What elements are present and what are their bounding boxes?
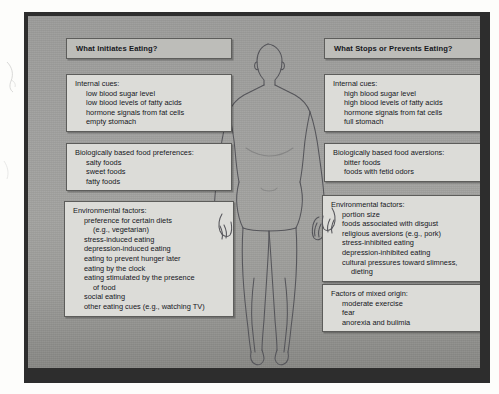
box-environmental-factors-initiates: Environmental factors: preference for ce… (64, 201, 234, 317)
stray-pencil-mark-icon (4, 60, 22, 94)
left-hand-overlay-icon (210, 212, 236, 242)
list-item: other eating cues (e.g., watching TV) (73, 302, 227, 312)
box-food-aversions: Biologically based food aversions: bitte… (324, 143, 480, 182)
box-category-label: Biologically based food aversions: (333, 148, 480, 158)
right-hand-overlay-icon (318, 206, 344, 236)
list-item: high blood sugar level (333, 89, 480, 99)
list-item: eating by the clock (73, 264, 227, 274)
list-item: eating to prevent hunger later (73, 254, 227, 264)
box-category-label: Internal cues: (333, 79, 480, 89)
list-item: salty foods (75, 158, 225, 168)
list-item: sweet foods (75, 167, 225, 177)
list-item: portion size (331, 210, 480, 220)
list-item: low blood sugar level (75, 89, 225, 99)
list-item: low blood levels of fatty acids (75, 98, 225, 108)
list-item: foods with fetid odors (333, 167, 480, 177)
box-category-label: Environmental factors: (331, 200, 480, 210)
list-item: bitter foods (333, 158, 480, 168)
list-item: high blood levels of fatty acids (333, 98, 480, 108)
list-item-continuation: (e.g., vegetarian) (73, 225, 227, 235)
list-item: stress-inhibited eating (331, 238, 480, 248)
list-item: depression-inhibited eating (331, 248, 480, 258)
figure-panel: What Initiates Eating? Internal cues: lo… (28, 16, 480, 368)
box-mixed-origin: Factors of mixed origin: moderate exerci… (322, 284, 480, 332)
box-category-label: Internal cues: (75, 79, 225, 89)
box-internal-cues-initiates: Internal cues: low blood sugar level low… (66, 74, 232, 132)
box-internal-cues-stops: Internal cues: high blood sugar level hi… (324, 74, 480, 132)
box-environmental-factors-stops: Environmental factors: portion size food… (322, 195, 480, 282)
list-item: cultural pressures toward slimness, (331, 258, 480, 268)
list-item: eating stimulated by the presence (73, 273, 227, 283)
list-item: hormone signals from fat cells (75, 108, 225, 118)
scanned-page: What Initiates Eating? Internal cues: lo… (0, 0, 499, 394)
stray-pencil-mark-secondary-icon (2, 158, 18, 184)
box-category-label: Environmental factors: (73, 206, 227, 216)
list-item: foods associated with disgust (331, 219, 480, 229)
box-food-preferences: Biologically based food preferences: sal… (66, 143, 232, 191)
column-header-initiates: What Initiates Eating? (66, 38, 232, 59)
list-item: anorexia and bulimia (331, 318, 480, 328)
list-item: preference for certain diets (73, 216, 227, 226)
list-item: moderate exercise (331, 299, 480, 309)
box-category-label: Factors of mixed origin: (331, 289, 480, 299)
list-item-continuation: of food (73, 283, 227, 293)
list-item: hormone signals from fat cells (333, 108, 480, 118)
list-item: religious aversions (e.g., pork) (331, 229, 480, 239)
list-item-continuation: dieting (331, 267, 480, 277)
list-item: empty stomach (75, 117, 225, 127)
list-item: stress-induced eating (73, 235, 227, 245)
box-category-label: Biologically based food preferences: (75, 148, 225, 158)
column-header-stops: What Stops or Prevents Eating? (324, 38, 480, 59)
list-item: fatty foods (75, 177, 225, 187)
list-item: social eating (73, 292, 227, 302)
list-item: depression-induced eating (73, 244, 227, 254)
list-item: fear (331, 308, 480, 318)
list-item: full stomach (333, 117, 480, 127)
